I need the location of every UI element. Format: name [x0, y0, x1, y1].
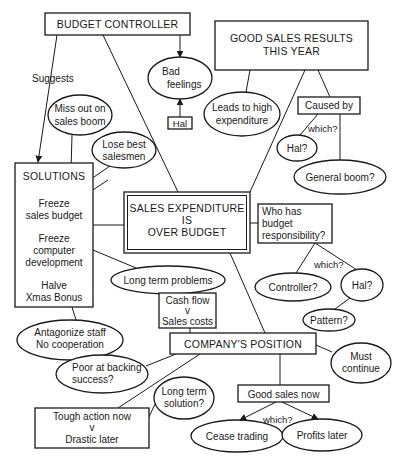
edge-longterm-toughaction	[149, 404, 155, 417]
svg-text:SOLUTIONS: SOLUTIONS	[23, 170, 85, 182]
edge-hal-pattern	[335, 298, 350, 309]
node-solutions[interactable]: SOLUTIONS Freeze sales budget Freeze com…	[15, 163, 93, 307]
label-suggests: Suggests	[32, 73, 74, 84]
svg-text:Sales costs: Sales costs	[162, 316, 213, 327]
node-companys-position[interactable]: COMPANY'S POSITION	[170, 333, 316, 354]
edge-company-poorbacking	[146, 354, 176, 366]
svg-text:sales boom: sales boom	[54, 116, 105, 127]
node-long-term-problems[interactable]: Long term problems	[111, 266, 225, 294]
edge-solutions-antagonize	[72, 307, 76, 320]
svg-text:budget: budget	[262, 218, 293, 229]
svg-text:Pattern?: Pattern?	[310, 315, 348, 326]
svg-text:Good sales now: Good sales now	[248, 389, 320, 400]
node-cash-flow[interactable]: Cash flow v Sales costs	[159, 293, 216, 328]
node-general-boom[interactable]: General boom?	[294, 160, 386, 194]
node-must-continue[interactable]: Must continue	[331, 343, 391, 383]
edge-company-mustcontinue	[316, 345, 332, 352]
node-hal-q-top[interactable]: Hal?	[277, 135, 317, 161]
svg-text:BUDGET CONTROLLER: BUDGET CONTROLLER	[57, 18, 179, 30]
node-hal[interactable]: Hal	[168, 117, 192, 129]
node-miss-out[interactable]: Miss out on sales boom	[48, 95, 112, 135]
svg-text:feelings: feelings	[167, 79, 201, 90]
node-pattern-q[interactable]: Pattern?	[303, 309, 355, 331]
node-hal-q-right[interactable]: Hal?	[341, 269, 383, 301]
svg-text:Must: Must	[350, 351, 372, 362]
node-profits-later[interactable]: Profits later	[282, 419, 362, 451]
node-caused-by[interactable]: Caused by	[298, 97, 360, 114]
label-which-caused: which?	[307, 123, 338, 134]
solution-halve-bonus-2: Xmas Bonus	[26, 292, 83, 303]
label-which-responsibility: which?	[313, 259, 344, 270]
svg-text:salesmen: salesmen	[103, 151, 146, 162]
node-bad-feelings[interactable]: Bad feelings	[148, 57, 212, 99]
svg-text:Miss out on: Miss out on	[54, 103, 105, 114]
svg-text:Antagonize staff: Antagonize staff	[34, 327, 106, 338]
svg-text:Long term: Long term	[161, 386, 206, 397]
node-budget-controller[interactable]: BUDGET CONTROLLER	[45, 13, 190, 35]
svg-text:Controller?: Controller?	[269, 282, 318, 293]
svg-text:Caused by: Caused by	[305, 100, 353, 111]
node-cease-trading[interactable]: Cease trading	[191, 420, 283, 452]
solution-freeze-computer-2: computer	[33, 245, 75, 256]
edge-goodsales-leads	[246, 70, 250, 92]
svg-text:No cooperation: No cooperation	[36, 339, 104, 350]
node-lose-best[interactable]: Lose best salesmen	[92, 132, 156, 168]
solution-freeze-sales-1: Freeze	[38, 198, 70, 209]
svg-text:General boom?: General boom?	[306, 172, 375, 183]
svg-text:v: v	[90, 422, 95, 433]
svg-text:Bad: Bad	[162, 66, 180, 77]
svg-text:Lose best: Lose best	[102, 139, 146, 150]
node-sales-expenditure[interactable]: SALES EXPENDITURE IS OVER BUDGET	[124, 192, 250, 253]
node-poor-backing[interactable]: Poor at backing success?	[56, 355, 148, 393]
svg-text:COMPANY'S POSITION: COMPANY'S POSITION	[184, 338, 302, 350]
solution-freeze-computer-3: development	[25, 257, 82, 268]
svg-text:OVER BUDGET: OVER BUDGET	[148, 226, 227, 238]
edge-whohas-controller	[296, 243, 315, 273]
svg-text:Profits later: Profits later	[297, 430, 348, 441]
node-controller-q[interactable]: Controller?	[255, 273, 331, 301]
svg-text:Drastic later: Drastic later	[65, 434, 119, 445]
svg-text:Long term problems: Long term problems	[124, 275, 213, 286]
svg-text:Hal?: Hal?	[287, 143, 308, 154]
mind-map-diagram: Suggests which? which? which? BUDGET CON…	[0, 0, 402, 460]
svg-text:SALES EXPENDITURE: SALES EXPENDITURE	[130, 202, 245, 214]
node-good-sales-results[interactable]: GOOD SALES RESULTS THIS YEAR	[215, 21, 368, 70]
node-good-sales-now[interactable]: Good sales now	[238, 385, 329, 402]
svg-text:expenditure: expenditure	[216, 115, 269, 126]
svg-text:Hal: Hal	[173, 118, 187, 129]
node-tough-action[interactable]: Tough action now v Drastic later	[35, 408, 149, 448]
edge-controller-solutions	[38, 35, 57, 162]
svg-text:IS: IS	[182, 214, 192, 226]
node-antagonize[interactable]: Antagonize staff No cooperation	[17, 320, 123, 360]
svg-text:Hal?: Hal?	[352, 280, 373, 291]
node-who-has[interactable]: Who has budget responsibility?	[258, 204, 332, 243]
svg-text:solution?: solution?	[164, 398, 204, 409]
svg-text:Who has: Who has	[262, 206, 301, 217]
edge-goodsales-causedby	[318, 70, 330, 97]
solution-freeze-sales-2: sales budget	[26, 210, 83, 221]
svg-text:success?: success?	[72, 374, 114, 385]
svg-text:responsibility?: responsibility?	[262, 230, 326, 241]
svg-text:v: v	[185, 305, 190, 316]
diagram-svg: Suggests which? which? which? BUDGET CON…	[0, 0, 402, 460]
svg-text:Poor at backing: Poor at backing	[72, 362, 142, 373]
node-long-term-solution[interactable]: Long term solution?	[154, 377, 214, 419]
solution-halve-bonus-1: Halve	[41, 280, 67, 291]
node-leads-to-high[interactable]: Leads to high expenditure	[204, 92, 280, 136]
svg-text:Tough action now: Tough action now	[53, 411, 132, 422]
svg-text:Cease trading: Cease trading	[206, 431, 268, 442]
svg-text:GOOD SALES RESULTS: GOOD SALES RESULTS	[230, 32, 353, 44]
solution-freeze-computer-1: Freeze	[38, 233, 70, 244]
svg-text:Leads to high: Leads to high	[212, 102, 272, 113]
svg-text:THIS YEAR: THIS YEAR	[263, 45, 320, 57]
svg-text:continue: continue	[342, 363, 380, 374]
